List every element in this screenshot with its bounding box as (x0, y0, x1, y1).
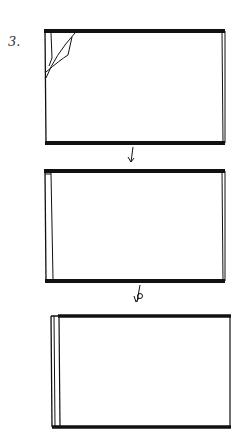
panel-2 (44, 171, 225, 281)
panel-3 (51, 316, 231, 427)
fold-diagram (0, 0, 242, 442)
peel-corner-icon (46, 33, 75, 78)
arrow-down-b-icon (134, 285, 143, 302)
panel-1 (44, 31, 225, 143)
arrow-down-icon (128, 147, 134, 162)
